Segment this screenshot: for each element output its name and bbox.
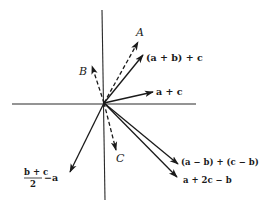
label-A: A [135,26,144,39]
label-a-plus-b-plus-c: (a + b) + c [146,52,203,63]
label-half-b-plus-c-minus-a: b + c 2 −a [24,167,58,189]
vector-C [104,103,116,150]
vector-B [92,66,104,103]
fraction-suffix: −a [44,172,58,183]
label-a-minus-b-plus-c-minus-b: (a − b) + (c − b) [181,157,259,167]
fraction-denominator: 2 [30,179,36,189]
label-a-plus-c: a + c [156,86,183,97]
vector-diagram: A (a + b) + c B a + c C (a − b) + (c − b… [0,0,262,206]
vector-A [104,42,138,103]
vector-half-b-plus-c-minus-a [70,103,104,172]
label-a-plus-2c-minus-b: a + 2c − b [183,175,232,185]
label-B: B [78,65,87,78]
label-C: C [116,152,125,165]
vector-a-plus-2c-minus-b [104,103,177,177]
